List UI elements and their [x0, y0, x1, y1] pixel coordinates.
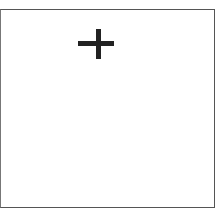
add-new-tile[interactable]: add [0, 9, 215, 208]
plus-icon-vertical[interactable] [96, 29, 101, 59]
